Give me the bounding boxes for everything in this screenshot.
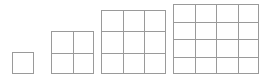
grid-cell xyxy=(238,39,260,57)
square-figure-3 xyxy=(101,10,166,74)
grid-cell xyxy=(216,4,238,22)
grid-cell xyxy=(101,53,123,74)
grid-cell xyxy=(144,10,166,31)
grid-cell xyxy=(195,4,217,22)
square-figure-1 xyxy=(12,52,34,74)
grid-cell xyxy=(216,39,238,57)
grid-cell xyxy=(173,4,195,22)
grid-cell xyxy=(73,31,95,53)
grid-cell xyxy=(195,39,217,57)
grid-cell xyxy=(101,10,123,31)
grid-cell xyxy=(51,31,73,53)
grid-cell xyxy=(73,53,95,75)
grid-cell xyxy=(238,57,260,75)
grid-cell xyxy=(238,4,260,22)
grid-cell xyxy=(238,22,260,40)
grid-cell xyxy=(12,52,34,74)
square-figure-2 xyxy=(51,31,94,74)
square-sequence-diagram xyxy=(0,0,269,78)
grid-cell xyxy=(216,22,238,40)
grid-cell xyxy=(144,53,166,74)
grid-cell xyxy=(173,39,195,57)
grid-cell xyxy=(144,31,166,52)
grid-cell xyxy=(195,22,217,40)
square-figure-4 xyxy=(173,4,259,74)
grid-cell xyxy=(173,22,195,40)
grid-cell xyxy=(123,31,145,52)
grid-cell xyxy=(195,57,217,75)
grid-cell xyxy=(51,53,73,75)
grid-cell xyxy=(123,10,145,31)
grid-cell xyxy=(123,53,145,74)
grid-cell xyxy=(216,57,238,75)
grid-cell xyxy=(101,31,123,52)
grid-cell xyxy=(173,57,195,75)
